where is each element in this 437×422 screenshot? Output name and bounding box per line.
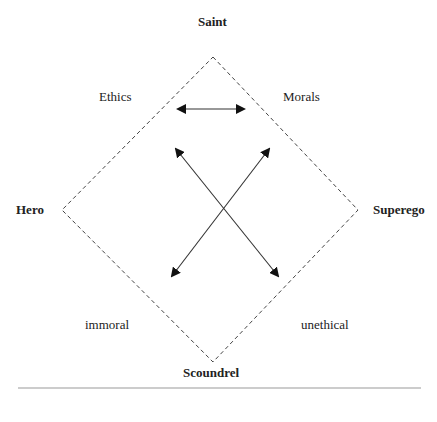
corner-label-left: Hero — [16, 202, 44, 218]
corner-label-top: Saint — [198, 14, 227, 30]
quadrant-label-unethical: unethical — [301, 317, 349, 333]
quadrant-label-immoral: immoral — [85, 317, 129, 333]
quadrant-label-morals: Morals — [283, 89, 320, 105]
corner-label-bottom: Scoundrel — [183, 365, 239, 381]
quadrant-label-ethics: Ethics — [99, 89, 132, 105]
arrow-ethics-unethical — [176, 149, 278, 276]
arrow-immoral-morals — [172, 149, 269, 276]
corner-label-right: Superego — [373, 202, 425, 218]
diagram-canvas — [0, 0, 437, 422]
